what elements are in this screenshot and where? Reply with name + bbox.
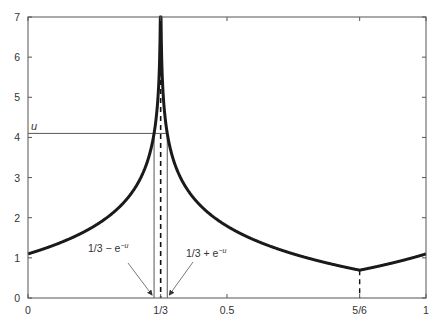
left-annotation-arrow: [128, 263, 152, 295]
x-tick-label: 1/3: [153, 304, 168, 316]
x-tick-label: 1: [423, 304, 429, 316]
x-tick-label: 0.5: [220, 304, 235, 316]
axis-ticks: 01/30.55/6101234567: [14, 11, 429, 316]
y-tick-label: 4: [14, 131, 20, 143]
axes-frame: [28, 17, 426, 298]
y-tick-label: 0: [14, 292, 20, 304]
plot-area: [28, 17, 426, 298]
left-annotation-label: 1/3 − e−u: [88, 242, 128, 254]
y-tick-label: 3: [14, 172, 20, 184]
data-curve: [28, 17, 426, 270]
y-tick-label: 7: [14, 11, 20, 23]
chart: 01/30.55/6101234567 u 1/3 − e−u 1/3 + e−…: [0, 0, 443, 324]
y-tick-label: 5: [14, 91, 20, 103]
u-label: u: [31, 120, 37, 132]
x-tick-label: 0: [25, 304, 31, 316]
right-annotation-arrow: [169, 262, 193, 295]
annotations: u 1/3 − e−u 1/3 + e−u: [31, 120, 226, 295]
right-annotation-label: 1/3 + e−u: [186, 247, 226, 259]
x-tick-label: 5/6: [352, 304, 367, 316]
y-tick-label: 2: [14, 212, 20, 224]
y-tick-label: 1: [14, 252, 20, 264]
y-tick-label: 6: [14, 51, 20, 63]
